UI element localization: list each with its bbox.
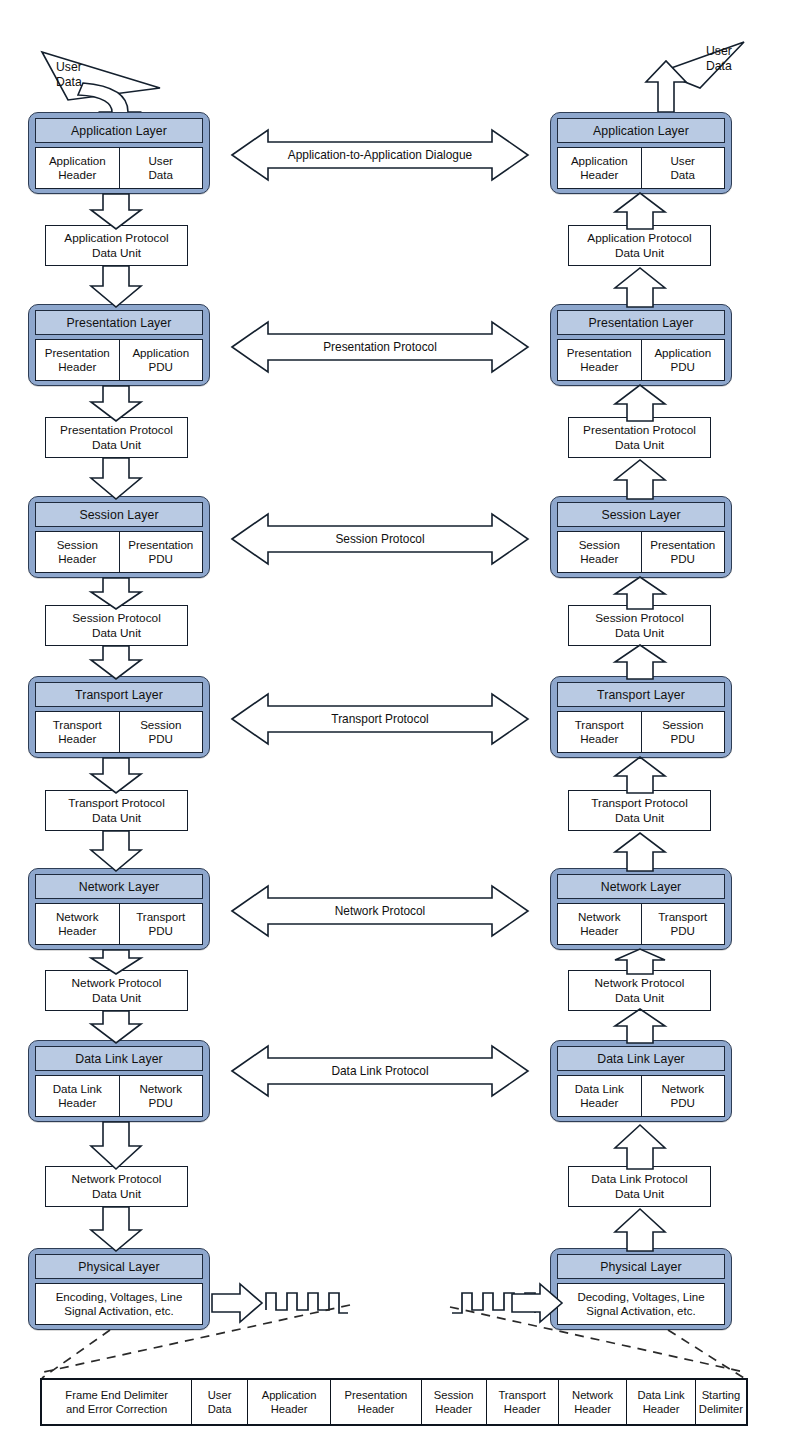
expansion-line-right-upper <box>668 1330 744 1378</box>
physical-out-arrow-left <box>212 1284 262 1322</box>
frame-cell-transport-header: Transport Header <box>486 1380 558 1424</box>
expansion-line-right-lower <box>450 1307 744 1372</box>
peer-protocol-datalink-label: Data Link Protocol <box>232 1064 528 1078</box>
peer-protocol-network: Network Protocol <box>232 888 528 934</box>
peer-protocol-arrows <box>232 130 528 1096</box>
frame-cell-frame-end-delimiter: Frame End Delimiter and Error Correction <box>42 1380 191 1424</box>
peer-protocol-network-label: Network Protocol <box>232 904 528 918</box>
frame-cell-application-header: Application Header <box>247 1380 330 1424</box>
expansion-line-left-lower <box>44 1305 350 1372</box>
frame-structure-table: Frame End Delimiter and Error Correction… <box>40 1378 748 1426</box>
frame-cell-network-header: Network Header <box>558 1380 627 1424</box>
peer-protocol-application: Application-to-Application Dialogue <box>232 132 528 178</box>
left-down-arrows <box>91 194 141 1251</box>
osi-encapsulation-diagram: User Data Application Layer Application … <box>0 0 788 1442</box>
frame-cell-user-data: User Data <box>191 1380 247 1424</box>
right-up-arrows <box>615 193 665 1251</box>
peer-protocol-datalink: Data Link Protocol <box>232 1048 528 1094</box>
frame-cell-presentation-header: Presentation Header <box>330 1380 421 1424</box>
peer-protocol-transport-label: Transport Protocol <box>232 712 528 726</box>
peer-protocol-transport: Transport Protocol <box>232 696 528 742</box>
frame-cell-starting-delimiter: Starting Delimiter <box>695 1380 746 1424</box>
square-wave-left <box>266 1293 348 1313</box>
frame-cell-session-header: Session Header <box>421 1380 486 1424</box>
peer-protocol-session-label: Session Protocol <box>232 532 528 546</box>
physical-in-arrow-right <box>512 1284 562 1322</box>
physical-medium-group <box>42 1284 744 1378</box>
peer-protocol-presentation: Presentation Protocol <box>232 324 528 370</box>
frame-cell-datalink-header: Data Link Header <box>626 1380 695 1424</box>
peer-protocol-session: Session Protocol <box>232 516 528 562</box>
peer-protocol-presentation-label: Presentation Protocol <box>232 340 528 354</box>
peer-protocol-application-label: Application-to-Application Dialogue <box>232 148 528 162</box>
